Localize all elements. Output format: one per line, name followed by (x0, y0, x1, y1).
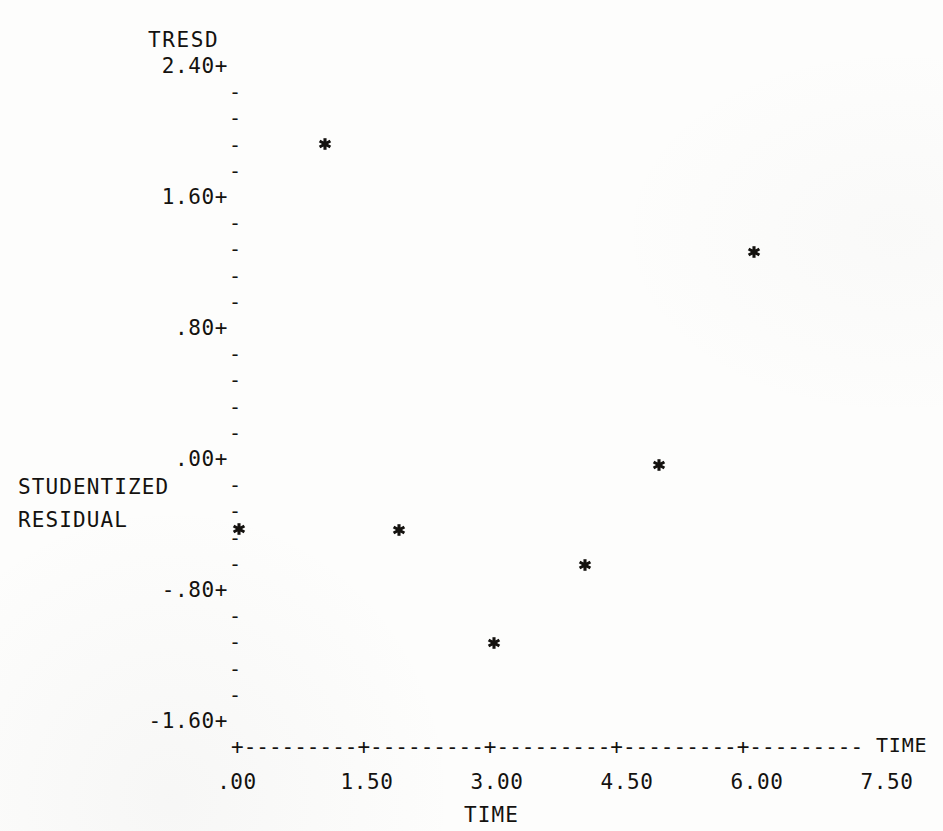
y-axis-minor-tick: - (229, 370, 249, 390)
y-axis-minor-tick: - (229, 423, 249, 443)
data-point-marker (391, 522, 407, 538)
x-axis-tick-label: 3.00 (437, 772, 557, 793)
scatter-plot: TRESD 2.40+----1.60+----.80+----.00+----… (0, 0, 943, 831)
x-axis-label-text: TIME (464, 803, 519, 827)
y-axis-tick-label: 2.40+ (108, 56, 228, 77)
y-axis-minor-tick: - (229, 501, 249, 521)
y-axis-minor-tick: - (229, 213, 249, 233)
x-axis-tick-label: 1.50 (307, 772, 427, 793)
y-axis-minor-tick: - (229, 82, 249, 102)
y-axis-tick-label: -1.60+ (108, 711, 228, 732)
page-title: TRESD (148, 30, 219, 51)
y-axis-label-line-1: STUDENTIZED (18, 477, 169, 498)
data-point-marker (577, 557, 593, 573)
y-axis-minor-tick: - (229, 161, 249, 181)
x-axis-tick-label: 4.50 (567, 772, 687, 793)
y-axis-tick-label: 1.60+ (108, 187, 228, 208)
data-point-marker (317, 136, 333, 152)
y-axis-tick-label: -.80+ (108, 580, 228, 601)
y-axis-minor-tick: - (229, 475, 249, 495)
y-axis-minor-tick: - (229, 632, 249, 652)
y-axis-minor-tick: - (229, 659, 249, 679)
data-point-marker (486, 635, 502, 651)
y-axis-minor-tick: - (229, 397, 249, 417)
y-axis-label-line-2: RESIDUAL (18, 510, 128, 531)
x-axis-tick-label: .00 (177, 772, 297, 793)
x-axis-tick-label: 6.00 (697, 772, 817, 793)
x-axis-line: +---------+---------+---------+---------… (231, 737, 863, 758)
y-axis-minor-tick: - (229, 554, 249, 574)
y-axis-minor-tick: - (229, 239, 249, 259)
data-point-marker (231, 521, 247, 537)
y-axis-minor-tick: - (229, 292, 249, 312)
y-axis-minor-tick: - (229, 108, 249, 128)
y-axis-tick-label: .00+ (108, 449, 228, 470)
y-axis-minor-tick: - (229, 266, 249, 286)
y-axis-minor-tick: - (229, 685, 249, 705)
data-point-marker (746, 244, 762, 260)
x-axis-end-label: TIME (876, 735, 927, 755)
y-axis-minor-tick: - (229, 606, 249, 626)
y-axis-tick-label: .80+ (108, 318, 228, 339)
data-point-marker (651, 457, 667, 473)
x-axis-tick-label: 7.50 (827, 772, 943, 793)
y-axis-minor-tick: - (229, 135, 249, 155)
y-axis-minor-tick: - (229, 344, 249, 364)
x-axis-label: TIME (0, 803, 943, 827)
